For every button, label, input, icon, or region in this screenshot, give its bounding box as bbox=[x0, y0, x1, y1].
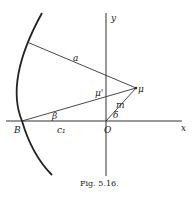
x-axis-label: x bbox=[181, 123, 186, 133]
point-mu-label: μ bbox=[138, 84, 144, 94]
y-axis-label: y bbox=[110, 13, 117, 23]
line-a-label: a bbox=[73, 53, 78, 63]
line-m-label: m bbox=[116, 100, 125, 110]
point-mu bbox=[135, 87, 137, 89]
segment-c1-label: c₁ bbox=[57, 125, 66, 135]
angle-delta-label: δ bbox=[113, 110, 118, 120]
line-beta-label: β bbox=[51, 111, 57, 121]
figure-caption: Fig. 5.16. bbox=[80, 179, 119, 188]
mu-prime-label: μ' bbox=[95, 88, 103, 98]
circle-arc bbox=[17, 13, 52, 175]
figure-diagram: y x O B μ μ' a β c₁ m δ Fig. 5.16. bbox=[0, 0, 196, 197]
line-a bbox=[27, 42, 136, 88]
point-b-label: B bbox=[13, 125, 21, 135]
origin-label: O bbox=[104, 125, 112, 135]
